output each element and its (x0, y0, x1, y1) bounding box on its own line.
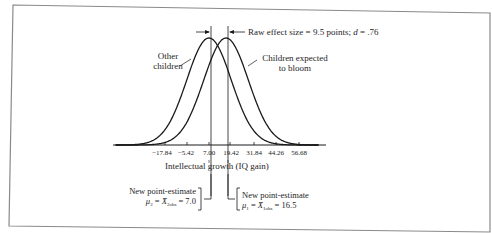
tick-label: 31.84 (246, 149, 262, 157)
tick-label: 19.42 (223, 149, 239, 157)
bracket-right (237, 188, 240, 210)
estimate-left: New point-estimate μ2 = X̄2obs = 7.0 (120, 186, 196, 210)
xbar-subscript: 2obs (167, 202, 176, 207)
mu-subscript: 2 (150, 202, 153, 207)
estimate-left-title: New point-estimate (120, 186, 196, 196)
estimate-right: New point-estimate μ1 = X̄1obs = 16.5 (242, 190, 309, 214)
tick-label: 56.68 (291, 149, 307, 157)
x-axis-label: Intellectual growth (IQ gain) (165, 161, 269, 171)
figure-canvas: Raw effect size = 9.5 points; d = .76 Ot… (0, 0, 492, 233)
tick-label: 44.26 (268, 149, 284, 157)
effect-size-text: Raw effect size = 9.5 points; (248, 27, 353, 37)
estimate-right-title: New point-estimate (242, 190, 309, 200)
label-other-children: Other children (148, 51, 188, 71)
mu-subscript: 1 (246, 206, 249, 211)
bracket-left-connector (204, 174, 211, 199)
d-value: = .76 (358, 27, 379, 37)
arrowhead-left-icon (205, 30, 210, 34)
tick-label: −5.42 (178, 149, 194, 157)
tick-label: −17.84 (152, 149, 172, 157)
label-bloom-line2: to bloom (255, 63, 335, 73)
label-other-line2: children (148, 61, 188, 71)
effect-size-annotation: Raw effect size = 9.5 points; d = .76 (248, 27, 378, 37)
label-bloom-line1: Children expected (255, 53, 335, 63)
estimate-left-value: = 7.0 (176, 196, 196, 206)
label-other-line1: Other (148, 51, 188, 61)
tick-label: 7.00 (203, 149, 215, 157)
estimate-right-formula: μ1 = X̄1obs = 16.5 (242, 200, 309, 214)
estimate-left-formula: μ2 = X̄2obs = 7.0 (120, 196, 196, 210)
arrowhead-right-icon (229, 30, 234, 34)
estimate-right-value: = 16.5 (272, 200, 296, 210)
label-children-bloom: Children expected to bloom (255, 53, 335, 73)
bracket-left (198, 188, 201, 210)
bracket-right-connector (228, 174, 235, 199)
